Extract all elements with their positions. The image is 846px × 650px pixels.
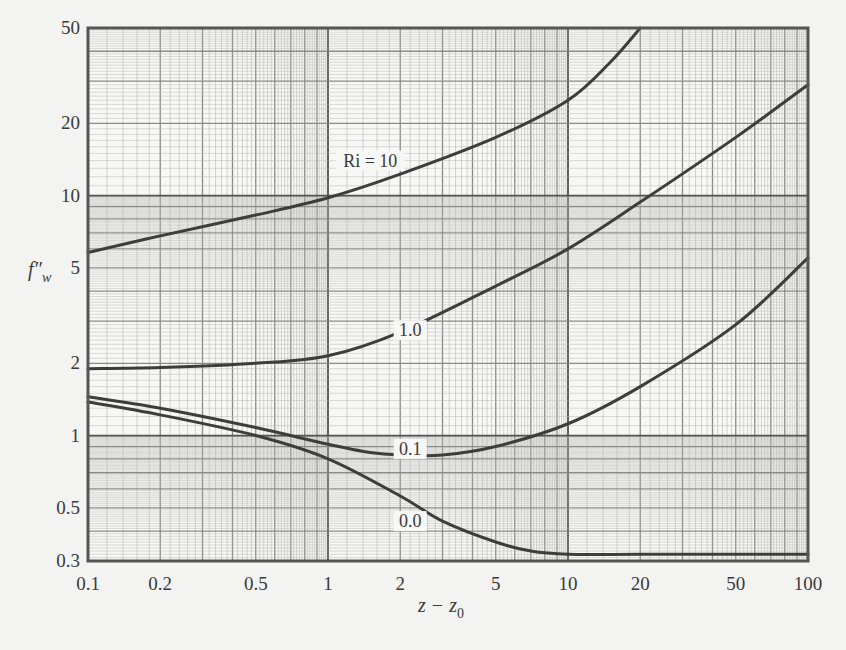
x-tick-label: 0.2 <box>148 573 172 594</box>
x-axis-title: z − z0 <box>417 594 464 621</box>
x-tick-label: 2 <box>395 573 405 594</box>
y-tick-label: 0.3 <box>56 550 80 571</box>
x-axis-tick-labels: 0.10.20.5125102050100 <box>76 573 822 594</box>
y-tick-label: 20 <box>61 112 80 133</box>
y-tick-label: 1 <box>71 425 81 446</box>
curve-label: Ri = 10 <box>343 151 397 171</box>
curve-label: 0.0 <box>399 511 422 531</box>
x-tick-label: 100 <box>794 573 823 594</box>
chart: Ri = 101.00.10.0 0.10.20.5125102050100 0… <box>0 0 846 650</box>
x-tick-label: 50 <box>726 573 745 594</box>
x-tick-label: 1 <box>323 573 333 594</box>
curve-label: 0.1 <box>399 439 422 459</box>
x-tick-label: 10 <box>559 573 578 594</box>
y-tick-label: 5 <box>71 257 81 278</box>
y-axis-title: f″w <box>28 258 52 285</box>
curve-label: 1.0 <box>399 320 422 340</box>
plot-background <box>88 28 808 561</box>
x-tick-label: 0.1 <box>76 573 100 594</box>
x-tick-label: 5 <box>491 573 501 594</box>
y-tick-label: 2 <box>71 352 81 373</box>
x-tick-label: 0.5 <box>244 573 268 594</box>
y-axis-tick-labels: 0.30.5125102050 <box>56 17 80 571</box>
y-tick-label: 10 <box>61 185 80 206</box>
y-tick-label: 50 <box>61 17 80 38</box>
y-tick-label: 0.5 <box>56 497 80 518</box>
x-tick-label: 20 <box>631 573 650 594</box>
